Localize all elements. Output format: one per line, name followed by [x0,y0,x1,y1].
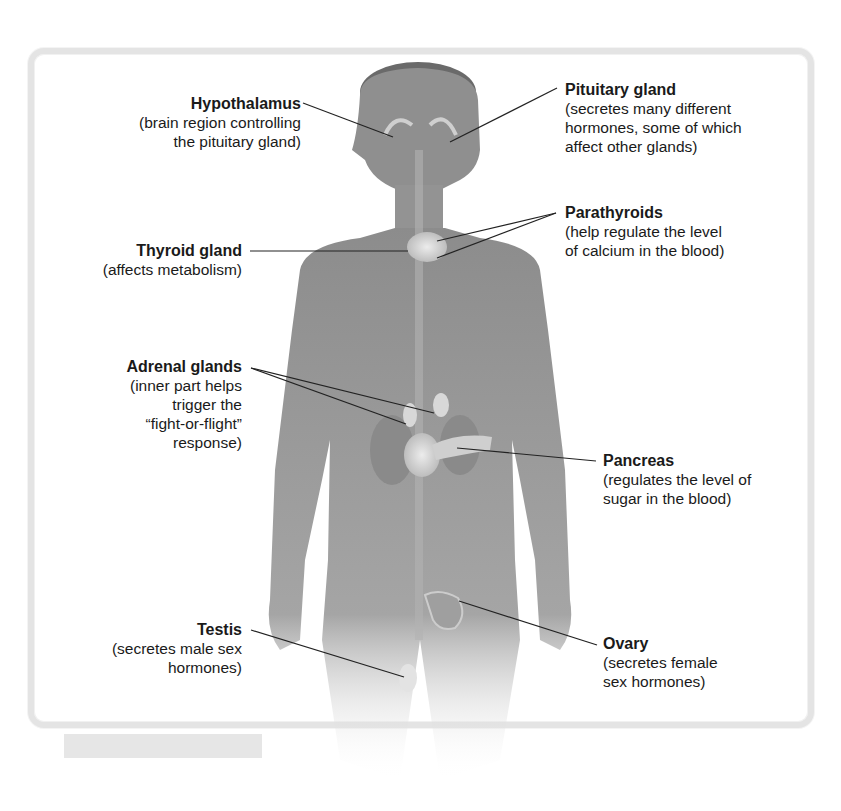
label-pituitary-gland: Pituitary gland (secretes many different… [565,80,742,156]
adrenal-right [433,393,449,417]
label-adrenal-glands: Adrenal glands (inner part helps trigger… [126,357,242,452]
label-title: Thyroid gland [103,241,242,260]
spinal-cord [415,150,423,640]
label-title: Pituitary gland [565,80,742,99]
label-title: Adrenal glands [126,357,242,376]
leader-parathyroid-1 [437,213,556,241]
label-pancreas: Pancreas (regulates the level of sugar i… [603,451,751,508]
label-description: (regulates the level of sugar in the blo… [603,470,751,508]
label-testis: Testis (secretes male sex hormones) [112,620,242,677]
label-description: (affects metabolism) [103,260,242,279]
label-title: Hypothalamus [139,94,301,113]
label-description: (help regulate the level of calcium in t… [565,222,724,260]
label-description: (secretes many different hormones, some … [565,99,742,156]
label-ovary: Ovary (secretes female sex hormones) [603,634,718,691]
label-description: (secretes female sex hormones) [603,653,718,691]
label-title: Parathyroids [565,203,724,222]
testis-shape [399,664,417,692]
label-hypothalamus: Hypothalamus (brain region controlling t… [139,94,301,151]
pancreas-head [404,433,440,477]
label-description: (brain region controlling the pituitary … [139,113,301,151]
label-title: Pancreas [603,451,751,470]
label-parathyroids: Parathyroids (help regulate the level of… [565,203,724,260]
label-thyroid-gland: Thyroid gland (affects metabolism) [103,241,242,279]
label-description: (secretes male sex hormones) [112,639,242,677]
thyroid-gland-shape [407,232,447,262]
label-description: (inner part helps trigger the “fight-or-… [126,376,242,452]
label-title: Ovary [603,634,718,653]
label-title: Testis [112,620,242,639]
